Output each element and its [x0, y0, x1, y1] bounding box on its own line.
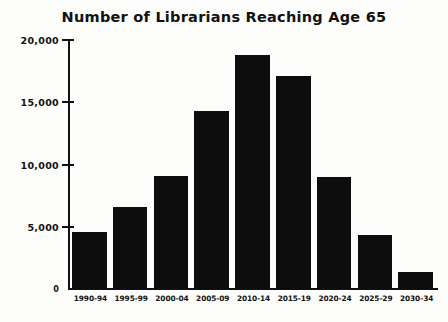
bar — [113, 207, 148, 289]
y-axis-tick-label: 0 — [53, 285, 59, 294]
bar — [398, 272, 433, 289]
x-axis-tick-label: 1995-99 — [115, 294, 148, 303]
bar — [235, 55, 270, 289]
y-axis-tick-label: 15,000 — [21, 97, 59, 108]
bar — [194, 111, 229, 289]
chart-title: Number of Librarians Reaching Age 65 — [0, 9, 448, 25]
x-axis-tick-label: 2030-34 — [400, 294, 433, 303]
bar — [317, 177, 352, 289]
bar — [154, 176, 189, 289]
x-axis-tick-label: 1990-94 — [74, 294, 107, 303]
bar-chart: Number of Librarians Reaching Age 65 05,… — [0, 0, 448, 322]
x-axis-tick-label: 2020-24 — [318, 294, 351, 303]
x-axis-tick-label: 2000-04 — [155, 294, 188, 303]
x-axis-tick-label: 2010-14 — [237, 294, 270, 303]
bar — [72, 232, 107, 289]
x-axis-tick-label: 2025-29 — [359, 294, 392, 303]
x-axis-tick-label: 2005-09 — [196, 294, 229, 303]
plot-area — [69, 40, 437, 289]
y-axis-tick-label: 5,000 — [27, 221, 59, 232]
y-axis-tick-label: 20,000 — [21, 35, 59, 46]
bar — [358, 235, 393, 289]
bar — [276, 76, 311, 289]
x-axis-tick-label: 2015-19 — [278, 294, 311, 303]
y-axis-tick-label: 10,000 — [21, 159, 59, 170]
